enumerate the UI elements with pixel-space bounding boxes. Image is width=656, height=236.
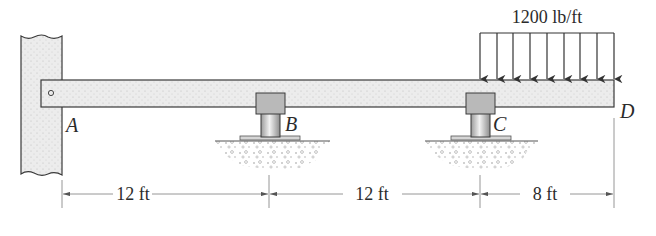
point-label-d: D [619,100,635,122]
point-label-b: B [285,113,297,135]
load-label: 1200 lb/ft [512,7,583,27]
dimension-label-bc: 12 ft [355,184,389,204]
distributed-load: 1200 lb/ft [480,7,614,79]
dimension-label-ab: 12 ft [116,184,150,204]
beam-diagram: 1200 lb/ft A B C D 12 ft 12 ft 8 ft [0,0,656,236]
point-label-c: C [493,113,507,135]
point-label-a: A [64,114,79,136]
load-arrows [480,33,614,79]
dimension-label-cd: 8 ft [533,184,558,204]
beam [41,80,614,107]
